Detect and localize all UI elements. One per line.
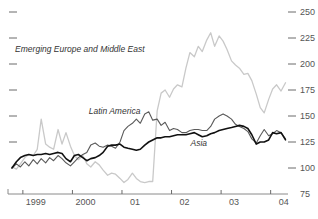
y-tick-label-175: 175 xyxy=(300,85,315,95)
right-tick-marks xyxy=(288,12,296,168)
y-tick-label-200: 200 xyxy=(300,59,315,69)
x-axis xyxy=(8,189,288,194)
y-tick-label-75: 75 xyxy=(300,189,310,199)
series-line-asia xyxy=(12,125,286,168)
chart-container: 25022520017515012510075 1999200001020304… xyxy=(0,0,318,219)
x-tick-label-1999: 1999 xyxy=(26,197,46,207)
y-tick-label-100: 100 xyxy=(300,163,315,173)
emerging-europe-label: Emerging Europe and Middle East xyxy=(15,44,145,54)
x-tick-label-02: 02 xyxy=(180,197,190,207)
x-tick-label-2000: 2000 xyxy=(75,197,95,207)
y-axis-tick-labels: 25022520017515012510075 xyxy=(300,7,315,199)
x-axis-tick-labels: 1999200001020304 xyxy=(26,197,289,207)
x-tick-label-04: 04 xyxy=(279,197,289,207)
asia-label: Asia xyxy=(190,138,208,148)
x-tick-label-01: 01 xyxy=(130,197,140,207)
y-tick-label-250: 250 xyxy=(300,7,315,17)
line-chart: 25022520017515012510075 1999200001020304… xyxy=(0,0,318,219)
latin-america-label: Latin America xyxy=(89,106,141,116)
left-tick-marks xyxy=(9,12,17,142)
y-tick-label-225: 225 xyxy=(300,33,315,43)
x-tick-label-03: 03 xyxy=(229,197,239,207)
series-line-latin-america xyxy=(12,112,286,168)
y-tick-label-125: 125 xyxy=(300,137,315,147)
series-lines xyxy=(12,33,286,183)
y-tick-label-150: 150 xyxy=(300,111,315,121)
